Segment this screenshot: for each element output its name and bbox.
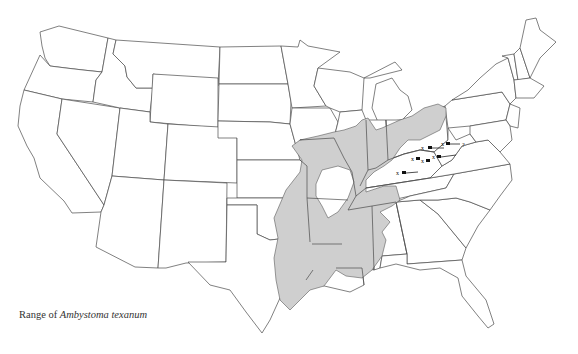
record-marker-2: x — [441, 141, 444, 147]
record-marker-6: x — [396, 170, 399, 176]
state-florida — [380, 254, 494, 328]
record-marker-1: x — [421, 145, 424, 151]
record-marker-3: x — [432, 154, 435, 160]
state-michigan — [364, 62, 412, 122]
record-marker-5: x — [421, 158, 424, 164]
state-south-dakota — [218, 84, 291, 124]
record-marker-4: x — [411, 156, 414, 162]
state-southern-new-england — [514, 78, 544, 98]
caption-prefix: Range of — [19, 309, 57, 320]
state-washington — [40, 26, 108, 72]
map-caption: Range of Ambystoma texanum — [19, 309, 147, 320]
state-wyoming — [150, 74, 218, 128]
state-north-dakota — [219, 46, 288, 84]
state-new-mexico — [158, 180, 227, 268]
record-marker-7: ? — [462, 142, 465, 148]
caption-species: Ambystoma texanum — [60, 309, 147, 320]
range-map: x x ? x x x x — [0, 0, 578, 354]
